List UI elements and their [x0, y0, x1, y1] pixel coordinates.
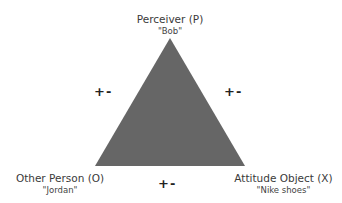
balance-theory-diagram: Perceiver (P) "Bob" Other Person (O) "Jo…	[0, 0, 342, 203]
attitude-object-example: "Nike shoes"	[225, 185, 342, 196]
node-perceiver: Perceiver (P) "Bob"	[120, 13, 220, 37]
node-other-person: Other Person (O) "Jordan"	[0, 172, 120, 196]
node-attitude-object: Attitude Object (X) "Nike shoes"	[225, 172, 342, 196]
edge-sign-other-object: +-	[158, 176, 176, 191]
perceiver-example: "Bob"	[120, 26, 220, 37]
edge-sign-perceiver-other: +-	[94, 84, 112, 99]
attitude-object-label: Attitude Object (X)	[225, 172, 342, 185]
perceiver-label: Perceiver (P)	[120, 13, 220, 26]
other-person-example: "Jordan"	[0, 185, 120, 196]
edge-sign-perceiver-object: +-	[224, 84, 242, 99]
triangle-shape	[95, 38, 245, 166]
other-person-label: Other Person (O)	[0, 172, 120, 185]
